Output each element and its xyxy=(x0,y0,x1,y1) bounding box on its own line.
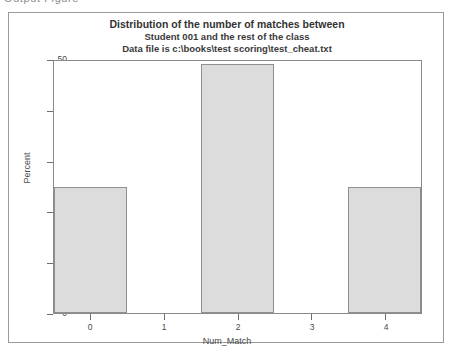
chart-title-block: Distribution of the number of matches be… xyxy=(9,18,445,55)
bar-num-match-4 xyxy=(348,187,421,313)
chart-figure-frame: Distribution of the number of matches be… xyxy=(8,12,444,343)
x-axis-tick-1 xyxy=(164,314,165,320)
x-axis-label-2: 2 xyxy=(218,322,258,332)
plot-area xyxy=(53,60,422,314)
x-axis-tick-4 xyxy=(385,314,386,320)
clipped-text-sliver-label: Output Figure xyxy=(4,0,79,4)
x-axis-label-4: 4 xyxy=(366,322,406,332)
bar-num-match-0 xyxy=(54,187,127,313)
chart-title-line-2: Student 001 and the rest of the class xyxy=(9,31,445,43)
x-axis-title: Num_Match xyxy=(9,336,445,346)
x-axis-tick-0 xyxy=(90,314,91,320)
x-axis-label-0: 0 xyxy=(70,322,110,332)
x-axis-label-1: 1 xyxy=(144,322,184,332)
chart-title-line-3: Data file is c:\books\test scoring\test_… xyxy=(9,43,445,55)
y-axis-title: Percent xyxy=(22,138,32,198)
chart-title-line-1: Distribution of the number of matches be… xyxy=(9,18,445,31)
x-axis-tick-3 xyxy=(311,314,312,320)
x-axis-tick-2 xyxy=(238,314,239,320)
clipped-text-sliver: Output Figure xyxy=(0,0,456,7)
x-axis-label-3: 3 xyxy=(292,322,332,332)
bar-num-match-2 xyxy=(201,64,274,313)
